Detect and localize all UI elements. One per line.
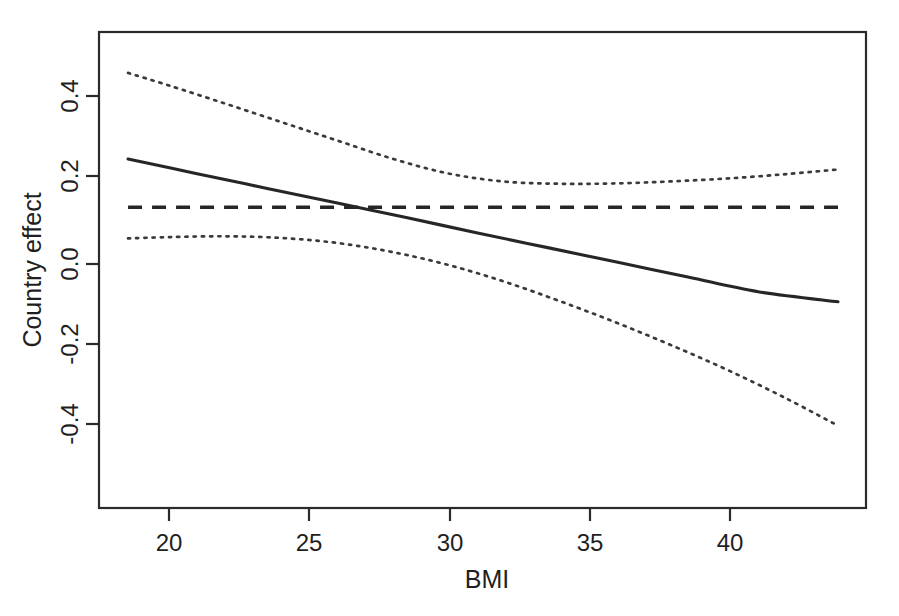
y-axis-title: Country effect xyxy=(18,192,46,347)
x-tick-label: 20 xyxy=(156,529,183,556)
x-tick-label: 25 xyxy=(296,529,323,556)
y-tick-label: -0.4 xyxy=(56,403,83,444)
y-tick-label: -0.2 xyxy=(56,323,83,364)
y-tick-label: 0.0 xyxy=(56,247,83,280)
chart-figure: 0.4 0.2 0.0 -0.2 -0.4 Country effect 20 … xyxy=(0,0,899,616)
x-axis-title: BMI xyxy=(465,565,509,593)
x-tick-label: 35 xyxy=(577,529,604,556)
x-tick-label: 40 xyxy=(717,529,744,556)
y-tick-label: 0.4 xyxy=(56,79,83,112)
y-tick-label: 0.2 xyxy=(56,159,83,192)
x-tick-label: 30 xyxy=(437,529,464,556)
country-effect-vs-bmi-chart: 0.4 0.2 0.0 -0.2 -0.4 Country effect 20 … xyxy=(0,0,899,616)
chart-background xyxy=(0,0,899,616)
